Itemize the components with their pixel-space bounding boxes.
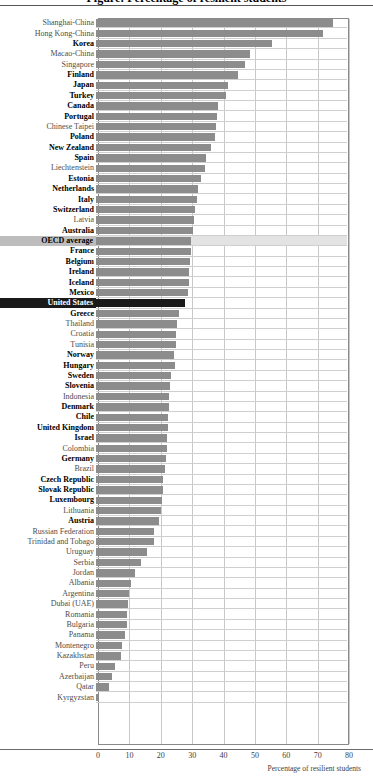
bar-track (96, 526, 347, 536)
chart-row: New Zealand (0, 143, 373, 153)
category-label-australia: Australia (0, 226, 96, 236)
category-label-luxembourg: Luxembourg (0, 495, 96, 505)
bar (96, 351, 174, 358)
category-label-jordan: Jordan (0, 568, 96, 578)
bar-track (96, 568, 347, 578)
chart-row: Belgium (0, 257, 373, 267)
bar (96, 71, 238, 78)
category-label-united-kingdom: United Kingdom (0, 423, 96, 433)
bar (96, 372, 171, 379)
category-label-albania: Albania (0, 578, 96, 588)
chart-row: Korea (0, 39, 373, 49)
bar (96, 92, 226, 99)
chart-row: Austria (0, 516, 373, 526)
bar (96, 642, 122, 649)
chart-row: Netherlands (0, 184, 373, 194)
bar (96, 569, 135, 576)
bar (96, 465, 165, 472)
category-label-thailand: Thailand (0, 319, 96, 329)
bar (96, 652, 121, 659)
bar-track (96, 672, 347, 682)
category-label-belgium: Belgium (0, 257, 96, 267)
chart-row: Montenegro (0, 641, 373, 651)
bar (96, 206, 195, 213)
bar (96, 320, 177, 327)
chart-row: Hong Kong-China (0, 28, 373, 38)
bar-track (96, 194, 347, 204)
bar (96, 144, 211, 151)
category-label-chile: Chile (0, 412, 96, 422)
category-label-peru: Peru (0, 661, 96, 671)
chart-row: Russian Federation (0, 526, 373, 536)
bar (96, 548, 147, 555)
chart-row: Israel (0, 433, 373, 443)
bar-track (96, 360, 347, 370)
bar (96, 382, 170, 389)
bar-track (96, 475, 347, 485)
bar-track (96, 537, 347, 547)
category-label-brazil: Brazil (0, 464, 96, 474)
chart-row: Brazil (0, 464, 373, 474)
bar (96, 113, 217, 120)
bar (96, 299, 185, 306)
category-label-france: France (0, 246, 96, 256)
bar (96, 434, 167, 441)
bar (96, 123, 216, 130)
bar-track (96, 28, 347, 38)
category-label-trinidad-and-tobago: Trinidad and Tobago (0, 537, 96, 547)
bar-track (96, 630, 347, 640)
chart-row: Liechtenstein (0, 163, 373, 173)
bar (96, 393, 169, 400)
bar (96, 40, 272, 47)
bar (96, 279, 189, 286)
bar (96, 331, 176, 338)
chart-row: Jordan (0, 568, 373, 578)
chart-row: Mexico (0, 288, 373, 298)
bar-track (96, 402, 347, 412)
bar-track (96, 309, 347, 319)
bar (96, 50, 250, 57)
bar (96, 61, 245, 68)
category-label-turkey: Turkey (0, 91, 96, 101)
chart-row: Qatar (0, 682, 373, 692)
category-label-netherlands: Netherlands (0, 184, 96, 194)
category-label-latvia: Latvia (0, 215, 96, 225)
category-label-ireland: Ireland (0, 267, 96, 277)
category-label-hungary: Hungary (0, 361, 96, 371)
chart-row: Hungary (0, 360, 373, 370)
x-axis-label: Percentage of resilient students (0, 764, 373, 773)
bar (96, 154, 206, 161)
bar (96, 528, 154, 535)
bar-track (96, 39, 347, 49)
chart-row: Iceland (0, 277, 373, 287)
x-tick-80: 80 (345, 751, 353, 760)
chart-row: Argentina (0, 589, 373, 599)
bar (96, 486, 163, 493)
chart-row: Colombia (0, 443, 373, 453)
bar-track (96, 267, 347, 277)
chart-row: Bulgaria (0, 620, 373, 630)
chart-row: Canada (0, 101, 373, 111)
chart-row: Serbia (0, 558, 373, 568)
bar (96, 673, 112, 680)
category-label-romania: Romania (0, 610, 96, 620)
bar-track (96, 329, 347, 339)
category-label-macao-china: Macao-China (0, 49, 96, 59)
chart-row: Romania (0, 609, 373, 619)
bar (96, 538, 154, 545)
bar (96, 507, 161, 514)
category-label-austria: Austria (0, 516, 96, 526)
category-label-colombia: Colombia (0, 444, 96, 454)
category-label-azerbaijan: Azerbaijan (0, 672, 96, 682)
category-label-norway: Norway (0, 350, 96, 360)
category-label-japan: Japan (0, 80, 96, 90)
category-label-kyrgyzstan: Kyrgyzstan (0, 693, 96, 703)
x-tick-30: 30 (188, 751, 196, 760)
chart-row: Lithuania (0, 506, 373, 516)
chart-row: Latvia (0, 215, 373, 225)
x-axis-line (0, 749, 373, 750)
chart-row: OECD average (0, 236, 373, 246)
bar-track (96, 226, 347, 236)
category-label-indonesia: Indonesia (0, 392, 96, 402)
category-label-portugal: Portugal (0, 112, 96, 122)
